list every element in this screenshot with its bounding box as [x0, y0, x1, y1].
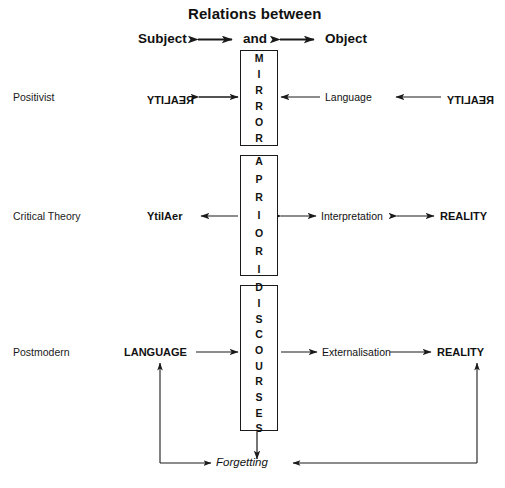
box-discourses-letter-5: U — [255, 361, 263, 372]
box-mirror-letter-0: M — [255, 53, 264, 64]
mirrored-reality-text: REALITY — [147, 95, 194, 106]
box-discourses-letter-3: C — [255, 329, 263, 340]
box-a-priori-letter-6: I — [258, 264, 261, 275]
node-critical-interpretation: Interpretation — [321, 211, 383, 222]
node-postmodern-reality: REALITY — [437, 347, 484, 358]
box-a-priori-letter-4: O — [255, 228, 263, 239]
box-a-priori-letter-5: R — [255, 246, 263, 257]
box-mirror-letter-3: R — [255, 101, 263, 112]
box-discourses-letter-0: D — [255, 282, 263, 293]
box-discourses-letter-1: I — [258, 298, 261, 309]
box-mirror-letter-1: I — [258, 69, 261, 80]
row-label-positivist: Positivist — [13, 92, 54, 103]
box-mirror-letter-5: R — [255, 133, 263, 144]
box-discourses-letter-4: O — [255, 345, 263, 356]
header-object: Object — [325, 32, 367, 46]
box-discourses-letter-2: S — [255, 314, 262, 325]
box-a-priori-letter-2: R — [255, 192, 263, 203]
node-positivist-reality-right: REALITY — [447, 91, 494, 107]
box-mirror-letter-2: R — [255, 85, 263, 96]
header-and: and — [243, 32, 267, 46]
node-postmodern-language: LANGUAGE — [124, 347, 187, 358]
node-positivist-language: Language — [325, 92, 372, 103]
diagram-canvas: Relations between Subject and Object Pos… — [0, 0, 505, 488]
row-label-critical-theory: Critical Theory — [13, 211, 81, 222]
node-critical-ytilaer: YtilAer — [147, 211, 182, 222]
node-positivist-reality-left: REALITY — [147, 91, 194, 107]
box-a-priori: APRIORI — [240, 155, 278, 276]
row-label-postmodern: Postmodern — [13, 347, 70, 358]
box-discourses-letter-8: E — [255, 408, 262, 419]
box-a-priori-letter-0: A — [255, 156, 263, 167]
node-postmodern-externalisation: Externalisation — [322, 347, 391, 358]
mirrored-reality-text-2: REALITY — [447, 95, 494, 106]
box-discourses-letter-6: R — [255, 376, 263, 387]
node-critical-reality: REALITY — [440, 211, 487, 222]
box-discourses: DISCOURSES — [240, 285, 278, 431]
box-mirror-letter-4: O — [255, 117, 263, 128]
node-forgetting: Forgetting — [216, 457, 268, 469]
box-a-priori-letter-1: P — [255, 174, 262, 185]
box-discourses-letter-7: S — [255, 392, 262, 403]
box-mirror: MIRROR — [240, 50, 278, 146]
box-discourses-letter-9: S — [255, 423, 262, 434]
diagram-title: Relations between — [188, 6, 321, 21]
header-subject: Subject — [138, 32, 187, 46]
box-a-priori-letter-3: I — [258, 210, 261, 221]
